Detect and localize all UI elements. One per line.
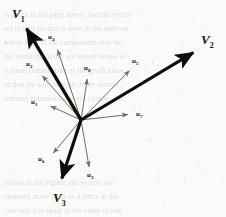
label-u3-subscript: 3: [91, 175, 94, 180]
label-u1-subscript: 1: [35, 102, 38, 107]
label-u5: u5: [132, 57, 138, 66]
label-V3-subscript: 3: [62, 199, 66, 208]
label-u6: u6: [38, 155, 44, 164]
label-u5-subscript: 5: [136, 61, 139, 66]
label-u1: u1: [31, 98, 37, 107]
label-u8: u8: [84, 64, 90, 73]
major-vector-group: [27, 29, 194, 179]
label-u3: u3: [87, 171, 93, 180]
label-V3: V3: [53, 190, 66, 208]
label-V1: V1: [12, 6, 25, 24]
label-V3-base: V: [53, 190, 62, 205]
label-u7: u7: [136, 110, 142, 119]
label-V2-subscript: 2: [210, 41, 214, 50]
vector-u8: [81, 79, 87, 120]
vector-canvas: [0, 0, 226, 217]
label-u4: u4: [48, 33, 54, 42]
label-u6-subscript: 6: [42, 159, 45, 164]
label-V2-base: V: [201, 32, 210, 47]
label-u7-subscript: 7: [140, 114, 143, 119]
label-u8-subscript: 8: [88, 68, 91, 73]
vector-diagram-figure: is given in the page above, and the vect…: [0, 0, 226, 217]
label-u2: u2: [26, 60, 32, 69]
vector-u3: [81, 120, 89, 167]
label-V2: V2: [201, 32, 214, 50]
label-u2-subscript: 2: [30, 64, 33, 69]
label-V1-base: V: [12, 6, 21, 21]
label-u4-subscript: 4: [52, 37, 55, 42]
vector-V3: [62, 120, 81, 178]
label-V1-subscript: 1: [21, 15, 25, 24]
